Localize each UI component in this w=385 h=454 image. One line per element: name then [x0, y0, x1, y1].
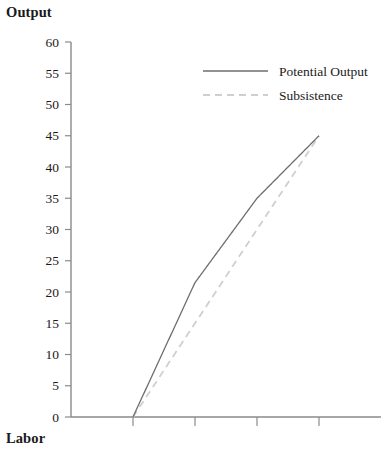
y-axis-tick-label: 60: [46, 35, 60, 50]
y-axis-tick-labels: 051015202530354045505560: [46, 35, 60, 425]
y-axis-tick-label: 35: [46, 191, 60, 206]
y-axis-tick-label: 40: [46, 160, 60, 175]
y-axis-tick-label: 5: [52, 378, 59, 393]
y-axis-tick-label: 50: [46, 97, 60, 112]
y-axis-tick-label: 45: [46, 128, 60, 143]
legend: Potential Output Subsistence: [203, 64, 368, 103]
y-axis-tick-label: 20: [46, 285, 60, 300]
plot-area: 051015202530354045505560 Potential Outpu…: [0, 0, 385, 454]
y-axis-tick-label: 15: [46, 316, 60, 331]
y-axis-ticks: [65, 42, 71, 417]
y-axis-tick-label: 55: [46, 66, 60, 81]
legend-label-subsistence: Subsistence: [279, 88, 343, 103]
y-axis-tick-label: 25: [46, 253, 60, 268]
y-axis-tick-label: 0: [52, 410, 59, 425]
y-axis-tick-label: 30: [46, 222, 60, 237]
series-line-subsistence: [133, 136, 319, 417]
legend-label-potential-output: Potential Output: [279, 64, 368, 79]
y-axis-tick-label: 10: [46, 347, 60, 362]
x-axis-ticks: [133, 417, 319, 426]
chart-figure: Output Labor 051015202530354045505560 Po…: [0, 0, 385, 454]
